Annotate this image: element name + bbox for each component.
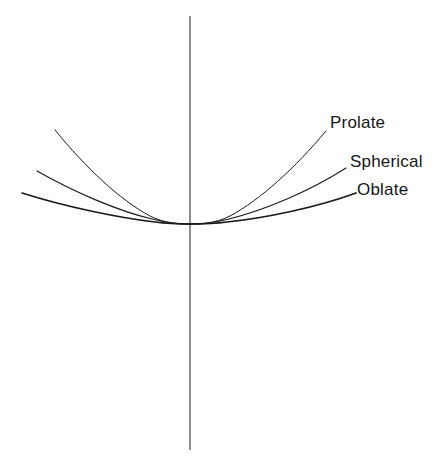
- curve-label-prolate: Prolate: [330, 113, 385, 132]
- curve-label-spherical: Spherical: [350, 152, 423, 171]
- curve-label-oblate: Oblate: [357, 180, 408, 199]
- figure-canvas: Prolate Spherical Oblate: [0, 0, 447, 460]
- conic-curves-figure: Prolate Spherical Oblate: [0, 0, 447, 460]
- figure-background: [0, 0, 447, 460]
